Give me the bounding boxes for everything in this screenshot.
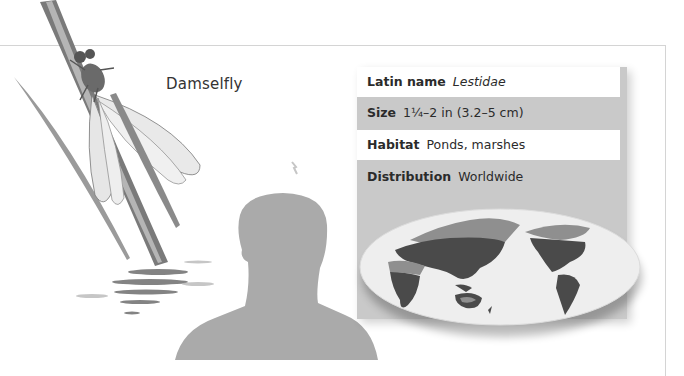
distribution-map — [0, 0, 684, 376]
